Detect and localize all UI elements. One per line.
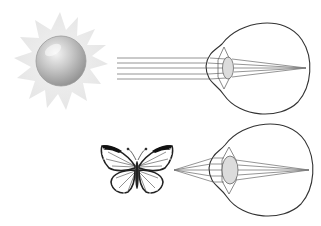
eye-distant (206, 23, 310, 114)
butterfly-icon (101, 145, 172, 193)
diagram: Eye accommodation: distant vs near objec… (0, 0, 321, 226)
eye-near (209, 124, 313, 216)
parallel-rays (117, 58, 210, 79)
diverging-rays (174, 158, 213, 182)
lens-thin (223, 57, 234, 79)
sun-icon (14, 12, 108, 110)
lens-thick (222, 156, 238, 184)
